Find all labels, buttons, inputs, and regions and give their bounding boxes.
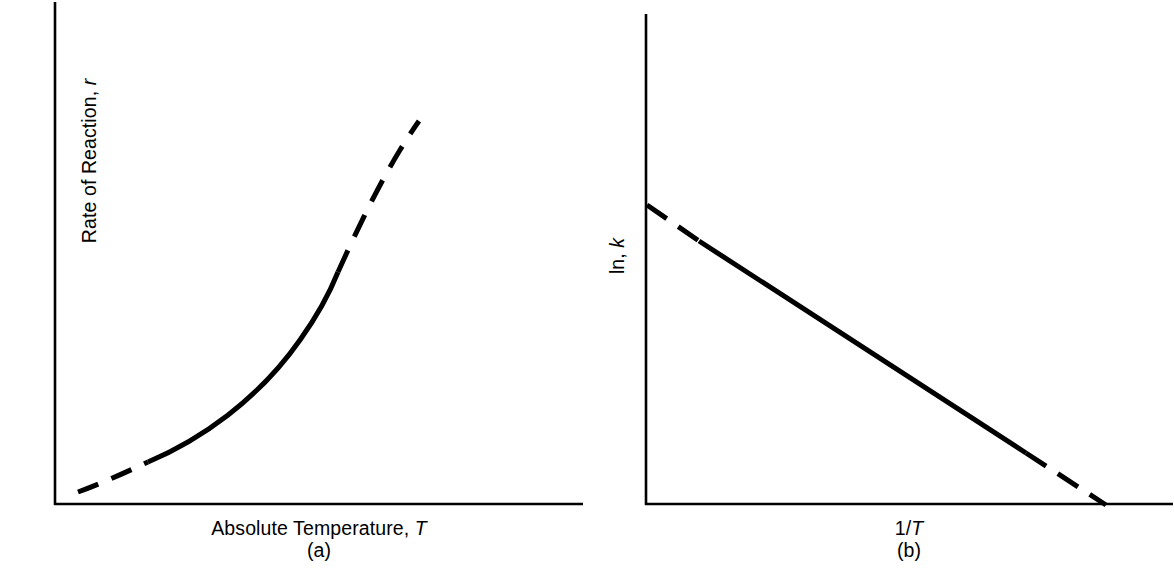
line-b-solid <box>699 241 1026 453</box>
line-b-dashed-high <box>1026 453 1106 505</box>
y-axis-label-a: Rate of Reaction, r <box>8 150 48 172</box>
x-axis-label-b-symbol: T <box>911 517 923 539</box>
panel-b-plot <box>600 0 1174 584</box>
curve-a-dashed-high <box>338 121 419 272</box>
y-axis-label-b: ln, k <box>598 245 638 267</box>
panel-caption-b: (b) <box>645 540 1173 562</box>
chart-panel-b: ln, k 1/T (b) <box>600 0 1174 584</box>
y-axis-label-a-symbol: r <box>78 79 100 86</box>
y-axis-label-b-text: ln, <box>606 253 628 274</box>
x-axis-label-a-text: Absolute Temperature, <box>211 517 409 539</box>
line-b-dashed-low <box>647 205 699 241</box>
curve-a-solid <box>148 272 338 462</box>
x-axis-label-a-symbol: T <box>415 517 427 539</box>
x-axis-label-b: 1/T (b) <box>645 518 1173 562</box>
figure-root: Rate of Reaction, r Absolute Temperature… <box>0 0 1174 584</box>
y-axis-label-a-text: Rate of Reaction, <box>78 91 100 243</box>
x-axis-label-a: Absolute Temperature, T (a) <box>54 518 584 562</box>
curve-a-dashed-low <box>78 462 148 492</box>
panel-caption-a: (a) <box>54 540 584 562</box>
y-axis-label-b-symbol: k <box>606 238 628 248</box>
chart-panel-a: Rate of Reaction, r Absolute Temperature… <box>0 0 600 584</box>
x-axis-label-b-text: 1/ <box>895 517 911 539</box>
